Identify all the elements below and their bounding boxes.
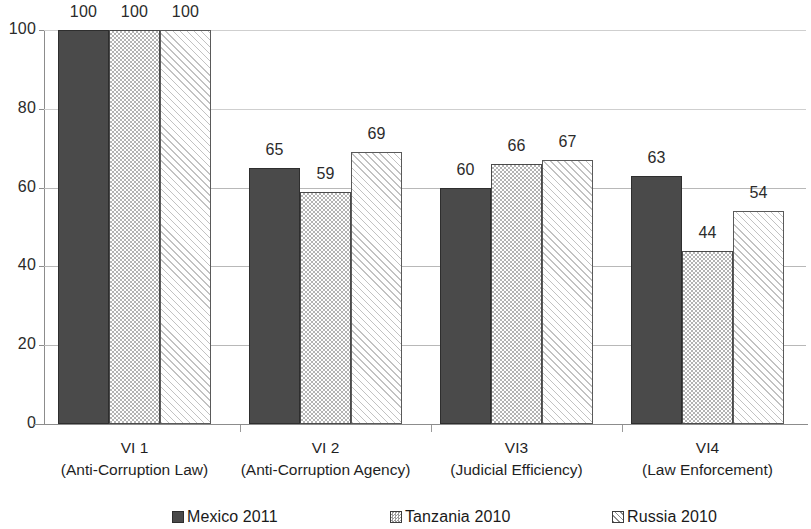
legend-item-russia[interactable]: Russia 2010 [612,508,717,526]
x-axis-category-code: VI4 [578,437,811,459]
bar-value-label: 100 [58,3,109,21]
legend-swatch-tanzania-icon [390,511,402,523]
bar-mexico-2011 [249,168,300,424]
bar-russia-2010 [351,152,402,424]
chart-legend: Mexico 2011Tanzania 2010Russia 2010 [0,503,811,529]
bar-tanzania-2010 [300,192,351,424]
y-axis-tick-label: 100 [0,20,36,38]
legend-swatch-mexico-icon [172,511,184,523]
plot-area: 100100100655969606667634454 [44,30,806,424]
bar-russia-2010 [733,211,784,424]
bar-value-label: 59 [300,165,351,183]
bar-tanzania-2010 [491,164,542,424]
x-axis-group-separator-tick [622,425,623,432]
bar-value-label: 63 [631,149,682,167]
bar-mexico-2011 [440,188,491,424]
bar-value-label: 65 [249,141,300,159]
bar-chart: 100806040200 100100100655969606667634454… [0,0,811,529]
bar-value-label: 67 [542,133,593,151]
y-axis-tick-label: 0 [0,414,36,432]
bar-tanzania-2010 [682,251,733,424]
bar-value-label: 44 [682,224,733,242]
legend-item-mexico[interactable]: Mexico 2011 [172,508,278,526]
x-axis-category-name: (Law Enforcement) [578,459,811,481]
bar-value-label: 54 [733,184,784,202]
legend-item-tanzania[interactable]: Tanzania 2010 [390,508,510,526]
y-axis-tick-label: 20 [0,335,36,353]
legend-item-label: Mexico 2011 [187,508,278,526]
legend-item-label: Tanzania 2010 [405,508,510,526]
legend-swatch-russia-icon [612,511,624,523]
bar-tanzania-2010 [109,30,160,424]
bar-value-label: 69 [351,125,402,143]
bar-value-label: 100 [109,3,160,21]
bar-mexico-2011 [631,176,682,424]
bar-value-label: 100 [160,3,211,21]
bar-russia-2010 [160,30,211,424]
x-axis-group-separator-tick [431,425,432,432]
bar-russia-2010 [542,160,593,424]
y-axis-tick-label: 80 [0,99,36,117]
y-axis-tick-label: 60 [0,178,36,196]
bar-value-label: 66 [491,137,542,155]
bar-value-label: 60 [440,161,491,179]
bar-mexico-2011 [58,30,109,424]
x-axis-line [33,424,808,425]
y-axis-tick-label: 40 [0,256,36,274]
x-axis-category-label: VI4(Law Enforcement) [578,437,811,482]
legend-item-label: Russia 2010 [627,508,717,526]
x-axis-group-separator-tick [240,425,241,432]
